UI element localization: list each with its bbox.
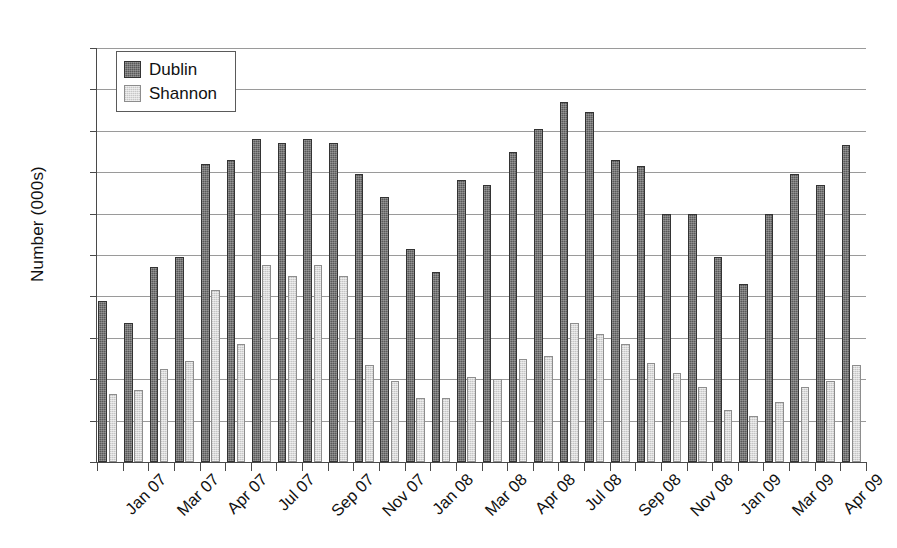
bar-shannon <box>826 381 835 462</box>
bar-shannon <box>852 365 861 462</box>
bar-shannon <box>134 390 143 462</box>
x-tick-label: Mar 07 <box>173 470 223 520</box>
bar-group <box>840 48 866 462</box>
bar-dublin <box>252 139 261 462</box>
bar-shannon <box>442 398 451 462</box>
y-tick-mark <box>90 338 97 339</box>
y-tick-mark <box>90 172 97 173</box>
x-tick-label: Jan 07 <box>121 470 169 518</box>
x-tick-label: Jan 08 <box>429 470 477 518</box>
bar-shannon <box>519 359 528 463</box>
legend-item-dublin: Dublin <box>124 57 228 81</box>
x-tick-label: Jul 07 <box>274 470 319 515</box>
bar-shannon <box>416 398 425 462</box>
bar-group <box>687 48 713 462</box>
bar-shannon <box>647 363 656 462</box>
bar-dublin <box>585 112 594 462</box>
x-tick-label: Sep 07 <box>327 470 377 520</box>
legend-item-shannon: Shannon <box>124 81 228 105</box>
bar-shannon <box>365 365 374 462</box>
bar-group <box>302 48 328 462</box>
x-axis-tick-labels: Jan 07Mar 07Apr 07Jul 07Sep 07Nov 07Jan … <box>96 470 896 548</box>
bar-shannon <box>391 381 400 462</box>
bar-group <box>482 48 508 462</box>
bar-chart: Number (000s) 20018016014012010080604020… <box>0 0 897 548</box>
bar-shannon <box>288 276 297 462</box>
bar-dublin <box>150 267 159 462</box>
bar-group <box>276 48 302 462</box>
bar-group <box>251 48 277 462</box>
x-tick-label: Mar 08 <box>481 470 531 520</box>
legend: Dublin Shannon <box>116 51 236 112</box>
bar-shannon <box>467 377 476 462</box>
bar-group <box>328 48 354 462</box>
bar-dublin <box>688 214 697 462</box>
bar-shannon <box>314 265 323 462</box>
bar-shannon <box>596 334 605 462</box>
x-tick-label: Nov 08 <box>686 470 736 520</box>
y-tick-mark <box>90 462 97 463</box>
bar-shannon <box>109 394 118 462</box>
y-tick-mark <box>90 89 97 90</box>
x-tick-label: Apr 09 <box>839 470 887 518</box>
bar-shannon <box>160 369 169 462</box>
bar-shannon <box>698 387 707 462</box>
bar-dublin <box>457 180 466 462</box>
bar-shannon <box>749 416 758 462</box>
bar-shannon <box>775 402 784 462</box>
x-tick-label: Jan 09 <box>737 470 785 518</box>
bar-dublin <box>406 249 415 462</box>
bar-group <box>712 48 738 462</box>
bar-dublin <box>739 284 748 462</box>
bar-dublin <box>98 301 107 462</box>
bar-group <box>533 48 559 462</box>
bar-shannon <box>339 276 348 462</box>
bar-shannon <box>621 344 630 462</box>
bar-dublin <box>432 272 441 462</box>
bar-dublin <box>124 323 133 462</box>
bar-group <box>738 48 764 462</box>
bar-shannon <box>724 410 733 462</box>
bar-dublin <box>355 174 364 462</box>
bar-group <box>610 48 636 462</box>
bar-group <box>763 48 789 462</box>
bar-group <box>584 48 610 462</box>
bar-group <box>456 48 482 462</box>
bar-dublin <box>842 145 851 462</box>
bar-group <box>558 48 584 462</box>
y-tick-mark <box>90 255 97 256</box>
bar-shannon <box>262 265 271 462</box>
x-tick-label: Sep 08 <box>635 470 685 520</box>
bar-dublin <box>534 129 543 462</box>
bar-shannon <box>801 387 810 462</box>
y-axis-title: Number (000s) <box>28 94 48 354</box>
y-tick-mark <box>90 379 97 380</box>
y-tick-mark <box>90 214 97 215</box>
bar-group <box>405 48 431 462</box>
bar-dublin <box>714 257 723 462</box>
bar-dublin <box>278 143 287 462</box>
bar-dublin <box>175 257 184 462</box>
x-tick-label: Apr 08 <box>531 470 579 518</box>
bar-dublin <box>201 164 210 462</box>
bar-shannon <box>673 373 682 462</box>
bar-dublin <box>816 185 825 462</box>
x-tick-label: Nov 07 <box>378 470 428 520</box>
legend-swatch-shannon-icon <box>124 85 141 102</box>
bar-shannon <box>185 361 194 462</box>
legend-label-shannon: Shannon <box>149 85 217 102</box>
bar-group <box>815 48 841 462</box>
legend-label-dublin: Dublin <box>149 61 197 78</box>
bar-shannon <box>493 379 502 462</box>
bar-group <box>353 48 379 462</box>
bar-group <box>507 48 533 462</box>
y-tick-mark <box>90 421 97 422</box>
legend-swatch-dublin-icon <box>124 61 141 78</box>
bar-dublin <box>765 214 774 462</box>
bar-shannon <box>237 344 246 462</box>
bar-dublin <box>790 174 799 462</box>
x-tick-label: Apr 07 <box>224 470 272 518</box>
bar-dublin <box>662 214 671 462</box>
bar-group <box>430 48 456 462</box>
bar-dublin <box>560 102 569 462</box>
